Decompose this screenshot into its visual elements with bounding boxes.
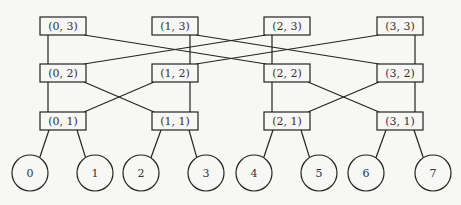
edge-3-1-to-7 — [414, 130, 423, 158]
leaf-node-label: 7 — [430, 167, 437, 180]
switch-node-3-3: (3, 3) — [377, 17, 423, 35]
switch-node-2-2: (2, 2) — [264, 64, 310, 82]
switch-node-3-1: (3, 1) — [377, 112, 423, 130]
edge-2-1-to-5 — [301, 130, 310, 158]
switch-node-label: (1, 1) — [160, 115, 190, 128]
switch-node-label: (2, 3) — [272, 20, 302, 33]
edge-0-1-to-1 — [77, 130, 86, 158]
switch-node-label: (3, 3) — [385, 20, 415, 33]
switch-node-0-1: (0, 1) — [40, 112, 86, 130]
leaf-node-5: 5 — [301, 155, 337, 191]
edges-layer — [40, 35, 424, 158]
switch-node-label: (3, 1) — [385, 115, 415, 128]
switch-node-label: (2, 2) — [272, 67, 302, 80]
leaf-node-label: 0 — [27, 167, 34, 180]
edge-3-1-to-6 — [376, 130, 386, 158]
edge-2-1-to-4 — [264, 130, 273, 158]
leaf-node-label: 1 — [92, 167, 99, 180]
leaves-layer: 01234567 — [12, 155, 451, 191]
switch-node-0-3: (0, 3) — [40, 17, 86, 35]
edge-1-1-to-3 — [189, 130, 197, 158]
switch-node-label: (3, 2) — [385, 67, 415, 80]
leaf-node-label: 4 — [251, 167, 258, 180]
leaf-node-3: 3 — [188, 155, 224, 191]
leaf-node-6: 6 — [348, 155, 384, 191]
switch-node-label: (1, 2) — [160, 67, 190, 80]
leaf-node-0: 0 — [12, 155, 48, 191]
diagram-canvas: (0, 3)(1, 3)(2, 3)(3, 3)(0, 2)(1, 2)(2, … — [0, 0, 461, 205]
switch-node-2-3: (2, 3) — [264, 17, 310, 35]
switch-node-0-2: (0, 2) — [40, 64, 86, 82]
switch-node-1-2: (1, 2) — [152, 64, 198, 82]
switch-node-label: (0, 2) — [48, 67, 78, 80]
nodes-layer: (0, 3)(1, 3)(2, 3)(3, 3)(0, 2)(1, 2)(2, … — [40, 17, 423, 130]
edge-1-1-to-2 — [151, 130, 161, 158]
switch-node-1-3: (1, 3) — [152, 17, 198, 35]
leaf-node-7: 7 — [415, 155, 451, 191]
edge-0-1-to-0 — [40, 130, 49, 158]
leaf-node-label: 6 — [363, 167, 370, 180]
switch-node-label: (1, 3) — [160, 20, 190, 33]
switch-node-label: (0, 3) — [48, 20, 78, 33]
butterfly-network-diagram: (0, 3)(1, 3)(2, 3)(3, 3)(0, 2)(1, 2)(2, … — [0, 0, 461, 205]
leaf-node-label: 3 — [203, 167, 210, 180]
switch-node-2-1: (2, 1) — [264, 112, 310, 130]
leaf-node-label: 5 — [316, 167, 323, 180]
switch-node-1-1: (1, 1) — [152, 112, 198, 130]
leaf-node-4: 4 — [236, 155, 272, 191]
leaf-node-2: 2 — [123, 155, 159, 191]
switch-node-label: (2, 1) — [272, 115, 302, 128]
leaf-node-1: 1 — [77, 155, 113, 191]
switch-node-label: (0, 1) — [48, 115, 78, 128]
leaf-node-label: 2 — [138, 167, 145, 180]
switch-node-3-2: (3, 2) — [377, 64, 423, 82]
